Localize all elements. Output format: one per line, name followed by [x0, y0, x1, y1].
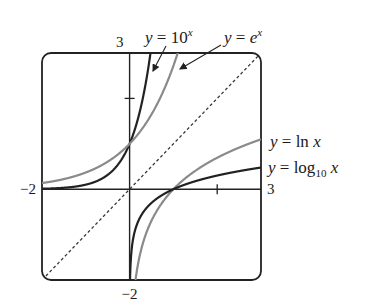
series-y-10-x	[42, 30, 261, 188]
y-max-label: 3	[116, 34, 124, 50]
arrow-ex	[180, 45, 221, 69]
series-y-x	[42, 53, 261, 280]
label-ex: y = ex	[222, 26, 262, 47]
plot-frame	[42, 53, 261, 280]
label-lnx: y = ln x	[268, 132, 321, 151]
series-y-ln-x	[130, 139, 261, 302]
arrow-10x	[153, 46, 166, 71]
label-log10x: y = log10 x	[266, 158, 339, 179]
chart: −23−23y = 10xy = exy = ln xy = log10 x	[0, 0, 369, 307]
x-min-label: −2	[20, 181, 36, 197]
y-min-label: −2	[122, 286, 138, 302]
x-max-label: 3	[267, 181, 275, 197]
label-10x: y = 10x	[143, 26, 193, 47]
series-y-log10-x	[130, 168, 261, 298]
